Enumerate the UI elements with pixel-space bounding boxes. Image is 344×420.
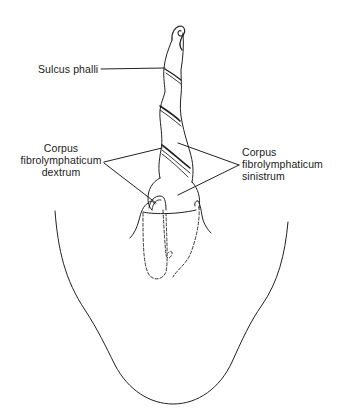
spiral-groove-3	[162, 145, 190, 168]
right-flap	[198, 201, 211, 233]
dashed-right-line	[173, 207, 199, 277]
label-dextrum-line3: dextrum	[17, 166, 105, 178]
spiral-groove-3c	[162, 154, 188, 177]
leader-dextrum-upper	[104, 148, 162, 162]
dashed-center-line	[163, 210, 172, 258]
label-corpus-fibrolymphaticum-dextrum: Corpus fibrolymphaticum dextrum	[17, 142, 105, 178]
left-flap	[130, 203, 148, 238]
label-sinistrum-line3: sinistrum	[242, 170, 323, 182]
label-dextrum-line1: Corpus	[17, 142, 105, 154]
base-collar	[143, 210, 196, 214]
spiral-groove-2	[160, 106, 180, 121]
leader-sinistrum-upper	[178, 143, 239, 165]
phallus-tip-groove	[180, 35, 183, 50]
label-sulcus-phalli: Sulcus phalli	[38, 63, 98, 75]
right-flap-tip	[195, 201, 198, 206]
label-sinistrum-line2: fibrolymphaticum	[242, 158, 323, 170]
spiral-groove-3b	[162, 150, 190, 173]
phallus-outline-right	[180, 33, 193, 182]
leader-dextrum-lower	[104, 163, 156, 203]
leader-sulcus-phalli	[101, 68, 165, 69]
leader-sinistrum-lower	[178, 165, 239, 195]
corpus-dextrum-lobe	[149, 196, 166, 210]
label-corpus-fibrolymphaticum-sinistrum: Corpus fibrolymphaticum sinistrum	[242, 146, 323, 182]
body-outline	[55, 211, 288, 404]
label-dextrum-line2: fibrolymphaticum	[17, 154, 105, 166]
label-sinistrum-line1: Corpus	[242, 146, 323, 158]
